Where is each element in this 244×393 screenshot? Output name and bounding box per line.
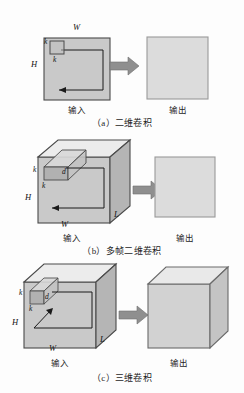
- panel-3d-convolution: k k d H W L 输入 输出 （c）三维卷积: [0, 255, 244, 393]
- dim-label-k-vertical-c: k: [19, 288, 22, 297]
- process-arrow-c: [119, 306, 148, 324]
- dim-label-W-b: W: [61, 219, 68, 229]
- input-label-b: 输入: [42, 231, 102, 243]
- dim-label-k-vertical-a: k: [44, 37, 47, 46]
- output-square-b: [155, 157, 215, 217]
- convolution-comparison-figure: W H k k 输入 输出 （a）二维卷积: [0, 0, 244, 393]
- dim-label-H-a: H: [31, 59, 37, 69]
- dim-label-H-c: H: [12, 317, 18, 327]
- kernel-square-a: [50, 41, 64, 54]
- panel-2d-convolution: W H k k 输入 输出 （a）二维卷积: [0, 0, 244, 130]
- dim-label-k-horizontal-a: k: [53, 55, 56, 64]
- dim-label-d-c: d: [45, 292, 49, 301]
- input-label-c: 输入: [30, 356, 90, 368]
- dim-label-k-horizontal-c: k: [29, 304, 32, 313]
- dim-label-L-c: L: [100, 334, 105, 344]
- kernel-cube-front-c: [30, 291, 44, 304]
- dim-label-d-b: d: [62, 167, 66, 176]
- dim-label-W-c: W: [49, 343, 56, 353]
- output-label-c: 输出: [148, 356, 210, 368]
- caption-c: （c）三维卷积: [0, 371, 244, 384]
- panel-multiframe-2d-convolution: k k d H W L 输入 输出 （b）多帧二维卷积: [0, 127, 244, 258]
- output-cuboid-front-c: [148, 284, 210, 348]
- dim-label-H-b: H: [25, 192, 31, 202]
- dim-label-W-a: W: [73, 22, 80, 32]
- dim-label-k-vertical-b: k: [33, 165, 36, 174]
- output-square-a: [147, 37, 208, 99]
- dim-label-L-b: L: [114, 209, 119, 219]
- input-label-a: 输入: [47, 103, 107, 115]
- output-label-a: 输出: [148, 103, 208, 115]
- output-label-b: 输出: [155, 231, 215, 243]
- dim-label-k-horizontal-b: k: [42, 181, 45, 190]
- process-arrow-a: [110, 57, 139, 75]
